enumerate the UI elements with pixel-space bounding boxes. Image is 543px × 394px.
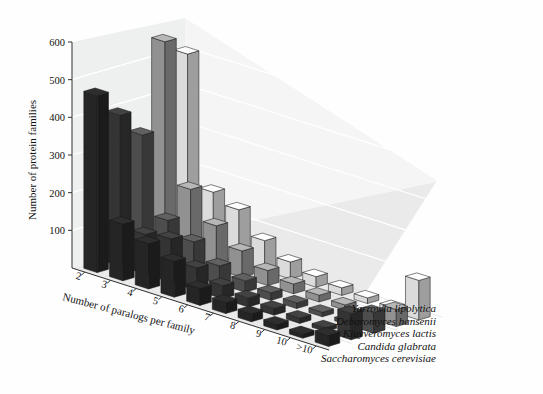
bar-side-face bbox=[97, 92, 108, 272]
legend-label: Candida glabrata bbox=[357, 340, 436, 352]
bar-front-face bbox=[110, 220, 123, 281]
legend-label: Kluyveromyces lactis bbox=[342, 327, 436, 339]
bar-front-face bbox=[135, 240, 148, 289]
y-tick-label: 400 bbox=[49, 112, 65, 123]
x-tick-label: 8 bbox=[229, 319, 237, 331]
bar-chart-3d: 100200300400500600 2345678910>10 Number … bbox=[0, 0, 543, 394]
bar-3d bbox=[212, 295, 237, 314]
chart-figure: 100200300400500600 2345678910>10 Number … bbox=[0, 0, 543, 394]
x-tick-label: 4 bbox=[126, 286, 135, 298]
bar-3d bbox=[232, 273, 257, 292]
y-axis: 100200300400500600 bbox=[49, 37, 72, 268]
y-tick-label: 600 bbox=[49, 37, 65, 48]
x-tick-label: 6 bbox=[178, 303, 186, 315]
bar-side-face bbox=[123, 221, 134, 281]
bar-side-face bbox=[174, 258, 185, 297]
bar-3d bbox=[187, 281, 212, 306]
bar-3d bbox=[161, 254, 186, 297]
y-tick-label: 100 bbox=[49, 225, 65, 236]
legend-label: Yarrowia lipolytica bbox=[352, 302, 437, 314]
x-tick-label: 9 bbox=[255, 327, 263, 339]
bar-side-face bbox=[149, 240, 160, 289]
bar-3d bbox=[277, 254, 302, 279]
y-tick-label: 300 bbox=[49, 150, 65, 161]
bar-side-face bbox=[242, 248, 253, 278]
bar-front-face bbox=[84, 91, 97, 272]
bar-3d bbox=[135, 236, 160, 289]
x-tick-label: 10 bbox=[275, 334, 288, 347]
x-tick-label: 2 bbox=[75, 270, 83, 282]
y-tick-label: 500 bbox=[49, 75, 65, 86]
y-tick-label: 200 bbox=[49, 188, 65, 199]
bar-front-face bbox=[161, 257, 174, 297]
legend-label: Debaromyces hansenii bbox=[335, 315, 436, 327]
legend-label: Saccharomyces cerevisiae bbox=[321, 352, 436, 364]
bar-3d bbox=[254, 263, 279, 286]
y-axis-title: Number of protein families bbox=[26, 100, 38, 220]
bar-3d bbox=[84, 88, 109, 273]
bar-3d bbox=[229, 243, 254, 277]
bar-3d bbox=[315, 328, 340, 347]
x-tick-label: 7 bbox=[203, 311, 211, 323]
x-tick-label: 5 bbox=[152, 295, 160, 307]
x-tick-label: 3 bbox=[100, 278, 108, 290]
bar-3d bbox=[110, 217, 135, 281]
